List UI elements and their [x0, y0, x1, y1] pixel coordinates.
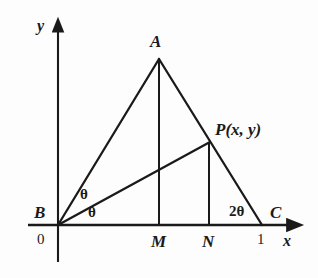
angle-label-acb-2theta: 2θ	[229, 204, 244, 219]
geometry-figure: A P(x, y) B C M N 0 1 x y θ θ 2θ	[0, 0, 318, 278]
x-axis-label: x	[283, 233, 291, 249]
foot-label-n: N	[202, 233, 214, 250]
vertex-label-b: B	[34, 204, 45, 221]
angle-label-abp-theta: θ	[80, 187, 88, 202]
vertex-label-a: A	[150, 33, 161, 50]
segment-BP	[58, 142, 210, 225]
point-label-p: P(x, y)	[215, 121, 261, 138]
angle-label-pbc-theta: θ	[88, 205, 96, 220]
vertex-label-c: C	[270, 204, 281, 221]
x-tick-label-1: 1	[257, 232, 265, 247]
segment-BA	[58, 59, 159, 225]
foot-label-m: M	[151, 233, 166, 250]
y-axis-label: y	[37, 18, 44, 34]
origin-label: 0	[37, 232, 45, 247]
